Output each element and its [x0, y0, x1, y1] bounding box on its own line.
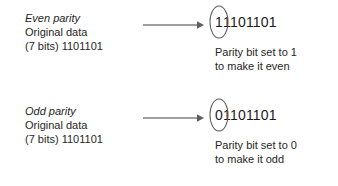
even-parity-heading: Even parity: [25, 11, 145, 25]
even-parity-original-label: Original data: [25, 25, 145, 39]
odd-parity-bit-wrapper: 0: [215, 106, 223, 124]
parity-bit-diagram: Even parity Original data (7 bits) 11011…: [0, 0, 338, 186]
right-arrow-icon: [143, 19, 205, 31]
even-parity-description: Even parity Original data (7 bits) 11011…: [25, 11, 145, 53]
even-parity-original-bits: (7 bits) 1101101: [25, 39, 145, 53]
even-parity-data-bits: 1101101: [223, 14, 277, 30]
even-parity-caption-line1: Parity bit set to 1: [215, 45, 335, 59]
odd-parity-original-bits: (7 bits) 1101101: [25, 132, 145, 146]
odd-parity-description: Odd parity Original data (7 bits) 110110…: [25, 104, 145, 146]
right-arrow-icon: [143, 112, 205, 124]
even-parity-caption: Parity bit set to 1 to make it even: [215, 45, 335, 73]
odd-parity-bit-value: 0: [215, 107, 223, 123]
even-parity-bit-value: 1: [215, 14, 223, 30]
even-parity-arrow: [143, 19, 205, 31]
even-parity-bit-wrapper: 1: [215, 13, 223, 31]
odd-parity-example: Odd parity Original data (7 bits) 110110…: [0, 93, 338, 186]
odd-parity-result-bits: 0 1101101: [215, 106, 277, 124]
odd-parity-arrow: [143, 112, 205, 124]
odd-parity-caption-line2: to make it odd: [215, 152, 335, 166]
odd-parity-caption-line1: Parity bit set to 0: [215, 138, 335, 152]
odd-parity-caption: Parity bit set to 0 to make it odd: [215, 138, 335, 166]
even-parity-result-bits: 1 1101101: [215, 13, 277, 31]
odd-parity-heading: Odd parity: [25, 104, 145, 118]
odd-parity-data-bits: 1101101: [223, 107, 277, 123]
even-parity-example: Even parity Original data (7 bits) 11011…: [0, 0, 338, 93]
even-parity-caption-line2: to make it even: [215, 59, 335, 73]
odd-parity-original-label: Original data: [25, 118, 145, 132]
